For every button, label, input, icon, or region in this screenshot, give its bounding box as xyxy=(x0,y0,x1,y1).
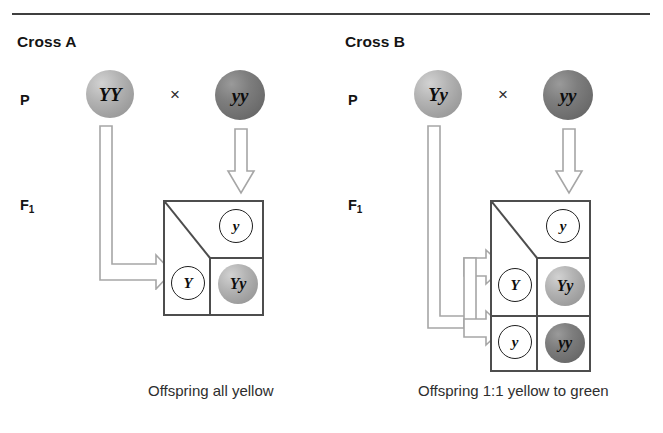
cross-a-f1-subscript: 1 xyxy=(29,204,35,215)
punnett-b-side-gamete-1-label: Y xyxy=(511,278,520,293)
punnett-b-horizontal-divider-2 xyxy=(492,315,589,317)
punnett-a-offspring-1-genotype: Yy xyxy=(230,276,246,292)
cross-a-caption: Offspring all yellow xyxy=(148,382,274,399)
punnett-b-top-gamete-label: y xyxy=(560,219,566,234)
cross-b-right-parent-arrow xyxy=(554,127,584,197)
cross-a-parent-1-pea: YY xyxy=(86,70,134,118)
cross-a-parental-label: P xyxy=(20,92,30,108)
cross-b-parent-2-genotype: yy xyxy=(560,86,576,105)
cross-b-parental-label: P xyxy=(348,92,358,108)
cross-b-punnett-square: y Y y Yy yy xyxy=(490,200,591,372)
cross-a-punnett-square: y Y Yy xyxy=(163,200,264,316)
punnett-a-horizontal-divider xyxy=(209,257,262,259)
punnett-a-side-gamete-Y: Y xyxy=(171,266,205,300)
cross-b-parent-1-pea: Yy xyxy=(414,70,462,118)
cross-a-f1-letter: F xyxy=(20,197,29,213)
cross-b-parent-2-pea: yy xyxy=(543,70,593,120)
cross-a-f1-label: F1 xyxy=(20,197,34,213)
punnett-b-offspring-2-genotype: yy xyxy=(558,335,572,351)
punnett-b-horizontal-divider-1 xyxy=(536,257,589,259)
cross-a-parent-1-genotype: YY xyxy=(99,85,122,104)
punnett-b-side-gamete-y: y xyxy=(498,325,532,359)
punnett-b-side-gamete-Y: Y xyxy=(498,268,532,302)
cross-b-parent-1-genotype: Yy xyxy=(428,85,447,104)
punnett-a-offspring-1: Yy xyxy=(218,264,258,304)
punnett-b-top-gamete-y: y xyxy=(546,209,580,243)
punnett-b-offspring-1-genotype: Yy xyxy=(557,278,573,294)
cross-b-f1-subscript: 1 xyxy=(357,204,363,215)
cross-a-parental-letter: P xyxy=(20,92,30,108)
punnett-a-top-gamete-y: y xyxy=(219,209,253,243)
cross-b-title: Cross B xyxy=(345,33,405,51)
cross-a-cross-symbol: × xyxy=(170,85,180,105)
cross-b-parental-letter: P xyxy=(348,92,358,108)
cross-a-title: Cross A xyxy=(17,33,77,51)
cross-a-parent-2-genotype: yy xyxy=(232,86,248,105)
cross-b-f1-letter: F xyxy=(348,197,357,213)
cross-b-f1-label: F1 xyxy=(348,197,362,213)
cross-b-caption: Offspring 1:1 yellow to green xyxy=(418,382,609,399)
punnett-b-header-diagonal xyxy=(492,202,538,259)
punnett-a-header-diagonal xyxy=(165,202,211,259)
cross-a-parent-2-pea: yy xyxy=(215,70,265,120)
punnett-b-offspring-1: Yy xyxy=(545,266,585,306)
punnett-b-offspring-2: yy xyxy=(545,323,585,363)
punnett-b-side-gamete-2-label: y xyxy=(512,335,518,350)
punnett-a-side-gamete-label: Y xyxy=(184,276,193,291)
genetics-cross-figure: Cross A P F1 YY × yy y Y xyxy=(0,0,663,433)
cross-b-cross-symbol: × xyxy=(498,85,508,105)
punnett-a-vertical-divider xyxy=(209,257,211,316)
cross-a-right-parent-arrow xyxy=(226,127,256,197)
punnett-a-top-gamete-label: y xyxy=(233,219,239,234)
top-divider-rule xyxy=(12,13,650,15)
